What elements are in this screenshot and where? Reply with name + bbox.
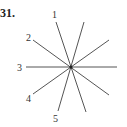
line-label-2: 2 [26,32,31,43]
line-pencil-diagram: 1 2 3 4 5 [0,0,127,127]
line-label-3: 3 [17,62,22,73]
line-label-5: 5 [53,113,58,124]
line-label-4: 4 [26,93,31,104]
line-label-1: 1 [52,9,57,20]
center-point [69,65,72,68]
